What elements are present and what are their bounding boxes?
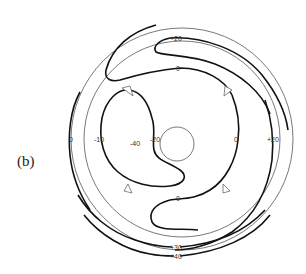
central-hole	[160, 127, 194, 161]
contour-minus10	[101, 90, 185, 187]
marker-top-left	[122, 86, 133, 96]
label-right-inner: 0	[234, 136, 238, 143]
label-bottom-40: +40	[170, 253, 182, 260]
label-top-inner: 0	[176, 65, 180, 72]
label-bottom-inner: 0	[176, 195, 180, 202]
label-left-inner: -10	[94, 136, 104, 143]
outer-boundary	[71, 28, 293, 250]
inner-ring	[84, 41, 280, 237]
marker-bottom-right	[223, 184, 230, 193]
contour-zero-right	[151, 95, 239, 230]
contour-left-outer	[69, 92, 90, 210]
contour-bottom-30	[78, 195, 172, 247]
marker-bottom-left	[124, 184, 132, 193]
label-center: -20	[150, 136, 160, 143]
label-right-outer: +20	[267, 136, 279, 143]
label-top-outer: +20	[170, 35, 182, 42]
marker-top-right	[224, 86, 232, 96]
label-bottom-30: +30	[170, 244, 182, 251]
label-left-outer: 0	[69, 136, 73, 143]
contour-diagram: +20 0 0 -10 -40 -20 0 +20 0 +30 +40	[0, 0, 306, 274]
label-center-left: -40	[130, 140, 140, 147]
